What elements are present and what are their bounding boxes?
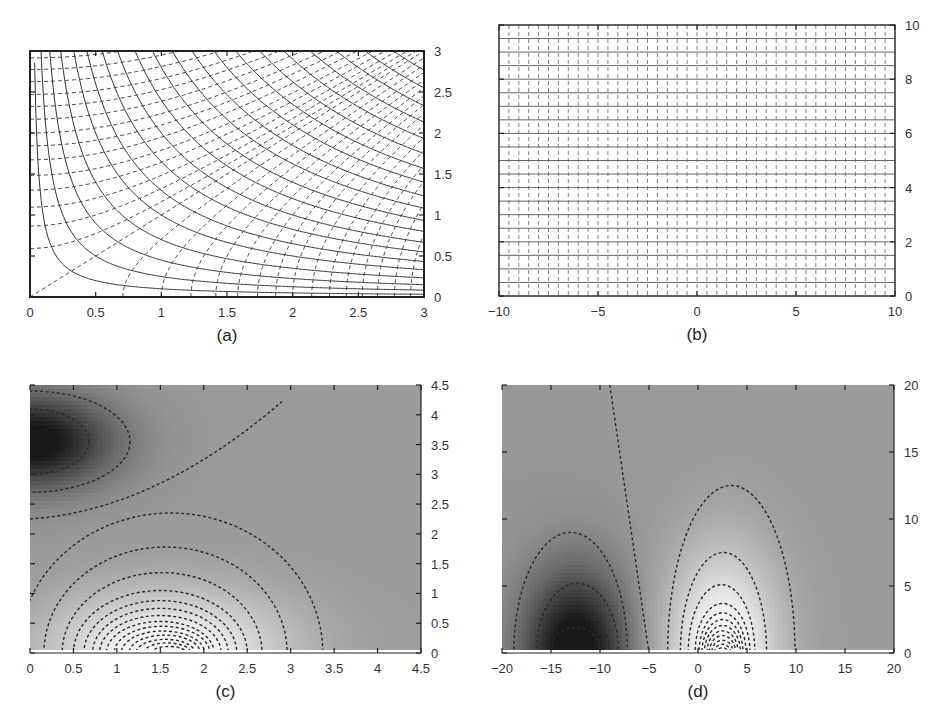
y-tick-label: 5: [904, 579, 911, 594]
x-tick-label: −20: [491, 661, 513, 676]
x-tick-label: 10: [789, 661, 803, 676]
panel-d: −20−15−10−50510152005101520(d): [0, 0, 949, 726]
x-tick-label: 0: [694, 661, 701, 676]
x-tick-label: −5: [642, 661, 657, 676]
y-tick-label: 20: [904, 378, 918, 393]
panel-caption: (d): [688, 682, 709, 701]
x-tick-label: −10: [589, 661, 611, 676]
y-tick-label: 10: [904, 512, 918, 527]
y-tick-label: 0: [904, 646, 911, 661]
y-tick-label: 15: [904, 445, 918, 460]
x-tick-label: 5: [743, 661, 750, 676]
x-tick-label: 20: [887, 661, 901, 676]
x-tick-label: 15: [838, 661, 852, 676]
chart-d-contour-field: −20−15−10−50510152005101520(d): [0, 0, 949, 726]
x-tick-label: −15: [540, 661, 562, 676]
